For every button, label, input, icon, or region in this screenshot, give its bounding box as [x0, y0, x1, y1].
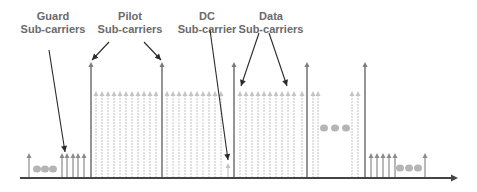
data-arrow: [262, 91, 267, 178]
data-arrow: [268, 91, 273, 178]
pointer-arrow: [269, 33, 288, 86]
ellipsis-dot: [405, 165, 413, 172]
data-arrow: [112, 91, 117, 178]
data-arrow: [350, 91, 355, 178]
ellipsis-dot: [49, 166, 57, 173]
ellipsis-dot: [331, 125, 339, 132]
data-arrow: [195, 91, 200, 178]
data-arrow: [286, 91, 291, 178]
axis-arrowhead-icon: [451, 175, 458, 182]
guard-arrow: [387, 153, 392, 178]
pointer-arrow: [49, 50, 67, 152]
data-arrow: [274, 91, 279, 178]
data-arrow: [213, 91, 218, 178]
data-arrow: [106, 91, 111, 178]
data-arrow: [316, 91, 321, 178]
ellipsis-dot: [396, 165, 404, 172]
data-arrow: [189, 91, 194, 178]
data-arrow: [244, 91, 249, 178]
data-arrow: [300, 91, 305, 178]
data-arrow: [142, 91, 147, 178]
guard-arrow: [381, 153, 386, 178]
data-arrow: [280, 91, 285, 178]
guard-arrow: [82, 153, 87, 178]
subcarrier-diagram: [0, 0, 477, 192]
ellipsis-dot: [33, 166, 41, 173]
ellipsis-dot: [41, 166, 49, 173]
pointer-arrow: [92, 42, 109, 60]
pilot-arrow: [305, 62, 310, 178]
data-arrow: [292, 91, 297, 178]
guard-arrow: [423, 153, 428, 178]
ellipsis-dot: [320, 125, 328, 132]
data-arrow: [219, 91, 224, 178]
data-arrow: [250, 91, 255, 178]
pilot-subcarrier-arrows: [89, 62, 368, 178]
data-arrow: [171, 91, 176, 178]
ellipsis-dot: [414, 165, 422, 172]
guard-arrow: [369, 153, 374, 178]
pilot-arrow: [160, 62, 165, 178]
data-arrow: [136, 91, 141, 178]
pilot-arrow: [363, 62, 368, 178]
ellipsis-dot: [342, 125, 350, 132]
data-arrow: [201, 91, 206, 178]
data-arrow: [177, 91, 182, 178]
guard-arrow: [60, 153, 65, 178]
data-arrow: [118, 91, 123, 178]
data-arrow: [100, 91, 105, 178]
data-arrow: [356, 91, 361, 178]
guard-arrow: [65, 153, 70, 178]
guard-arrow: [71, 153, 76, 178]
data-arrow: [94, 91, 99, 178]
data-arrow: [165, 91, 170, 178]
data-arrow: [154, 91, 159, 178]
pilot-arrow: [232, 62, 237, 178]
data-arrow: [207, 91, 212, 178]
dc-arrow: [226, 163, 231, 178]
data-arrow: [256, 91, 261, 178]
data-arrow: [148, 91, 153, 178]
pointer-arrow: [144, 42, 161, 60]
data-arrow: [183, 91, 188, 178]
data-arrow: [311, 91, 316, 178]
guard-arrow: [375, 153, 380, 178]
pilot-arrow: [89, 62, 94, 178]
guard-arrow: [27, 153, 32, 178]
data-arrow: [124, 91, 129, 178]
data-arrow: [130, 91, 135, 178]
data-subcarrier-arrows: [94, 91, 361, 178]
guard-arrow: [76, 153, 81, 178]
frequency-axis: [20, 175, 458, 182]
pointer-arrow: [240, 33, 259, 86]
guard-arrow: [393, 153, 398, 178]
data-arrow: [238, 91, 243, 178]
